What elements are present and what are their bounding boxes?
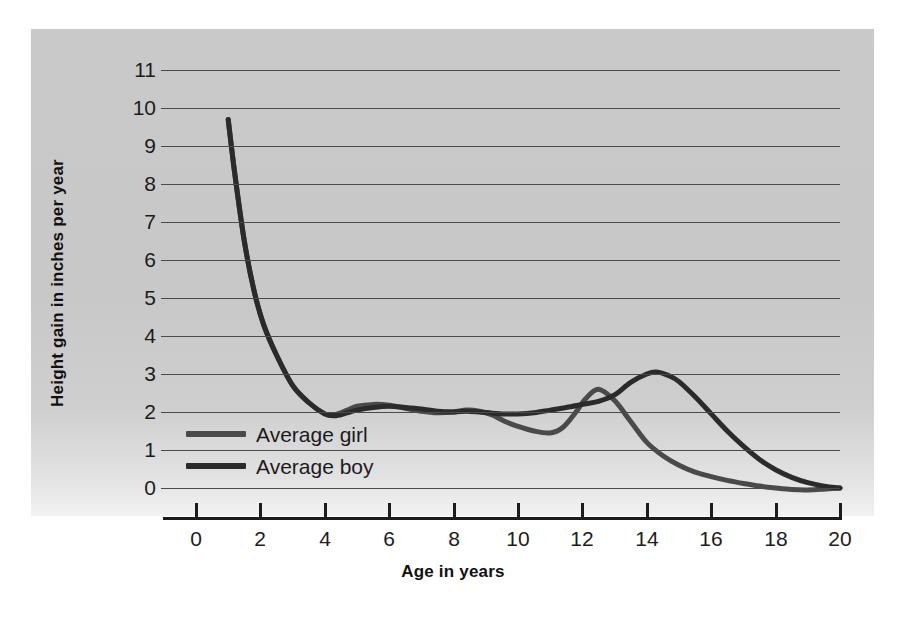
y-tick-label-7: 7 [120,211,156,232]
legend-label: Average girl [256,424,368,445]
y-tick-label-3: 3 [120,363,156,384]
x-tick-10 [517,503,520,518]
gridline-y-0 [161,488,840,489]
gridline-y-11 [161,70,840,71]
y-tick-label-5: 5 [120,287,156,308]
gridline-y-6 [161,260,840,261]
chart-legend: Average girlAverage boy [186,420,446,484]
x-tick-2 [259,503,262,518]
x-tick-14 [646,503,649,518]
gridline-y-5 [161,298,840,299]
plot-area: 01234567891011 02468101214161820 Age in … [0,0,906,625]
x-tick-label-16: 16 [689,527,733,551]
y-tick-label-10: 10 [120,97,156,118]
x-tick-12 [581,503,584,518]
y-tick-label-4: 4 [120,325,156,346]
gridline-y-7 [161,222,840,223]
legend-swatch-icon [186,463,246,469]
x-tick-6 [388,503,391,518]
y-axis-title: Height gain in inches per year [48,143,68,423]
x-axis-line [163,517,840,520]
y-tick-label-1: 1 [120,439,156,460]
gridline-y-2 [161,412,840,413]
x-tick-label-8: 8 [432,527,476,551]
y-tick-label-2: 2 [120,401,156,422]
legend-item-average-girl: Average girl [186,420,368,448]
x-tick-20 [839,503,842,520]
x-tick-label-10: 10 [496,527,540,551]
y-tick-label-0: 0 [120,477,156,498]
x-tick-8 [453,503,456,518]
x-tick-0 [195,503,198,520]
gridline-y-3 [161,374,840,375]
y-tick-label-9: 9 [120,135,156,156]
gridline-y-10 [161,108,840,109]
x-tick-4 [324,503,327,518]
x-tick-label-6: 6 [367,527,411,551]
gridline-y-8 [161,184,840,185]
x-axis-title: Age in years [0,562,906,582]
gridline-y-9 [161,146,840,147]
x-tick-16 [710,503,713,518]
x-tick-label-18: 18 [754,527,798,551]
x-tick-label-12: 12 [560,527,604,551]
x-tick-label-4: 4 [303,527,347,551]
legend-label: Average boy [256,456,374,477]
gridline-y-4 [161,336,840,337]
x-tick-label-2: 2 [238,527,282,551]
growth-velocity-chart: 01234567891011 02468101214161820 Age in … [0,0,906,625]
x-tick-label-0: 0 [174,527,218,551]
x-tick-label-20: 20 [818,527,862,551]
legend-item-average-boy: Average boy [186,452,374,480]
x-tick-label-14: 14 [625,527,669,551]
y-tick-label-11: 11 [120,59,156,80]
x-tick-18 [775,503,778,518]
y-tick-label-6: 6 [120,249,156,270]
y-tick-label-8: 8 [120,173,156,194]
legend-swatch-icon [186,431,246,437]
